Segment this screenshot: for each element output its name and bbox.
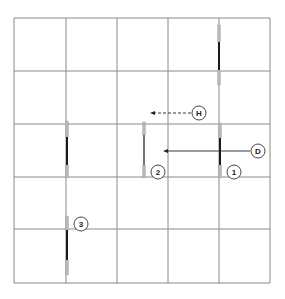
gray-segment [66,165,69,178]
gray-segment [219,123,222,138]
black-segment [66,137,68,165]
element-top-right [218,25,221,85]
black-segment [143,135,144,165]
gray-segment [66,216,69,230]
label-h: H [192,106,206,120]
label-3: 3 [74,217,88,231]
black-segment [219,138,221,165]
arrowhead-icon [150,111,155,115]
label-2: 2 [151,165,165,179]
black-segment [66,230,68,260]
element-center-2 [143,122,146,178]
labels: HD123 [74,106,265,231]
gray-segment [218,25,221,42]
gray-segment [219,165,222,178]
gray-segment [143,165,146,178]
black-segment [218,42,220,70]
label-text: D [255,147,261,156]
arrowhead-icon [163,149,168,153]
sliding-elements [66,25,222,275]
gray-segment [66,121,69,137]
gray-segment [143,122,146,135]
grid-diagram: HD123 [0,0,285,299]
label-text: 3 [79,220,84,229]
grid-lines [14,18,270,283]
label-1: 1 [227,165,241,179]
gray-segment [66,260,69,275]
label-d: D [251,144,265,158]
label-text: H [196,109,202,118]
label-text: 2 [156,168,161,177]
gray-segment [218,70,221,85]
label-text: 1 [232,168,237,177]
